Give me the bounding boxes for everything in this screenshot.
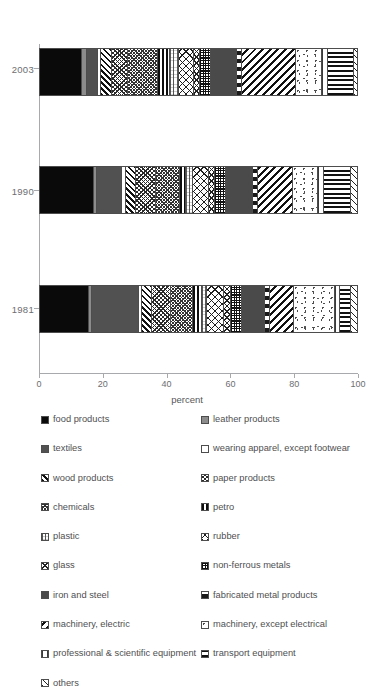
bar-segment-chemicals	[128, 49, 158, 95]
bar-segment-iron	[242, 286, 266, 332]
y-axis-label-1990: 1990	[0, 186, 34, 197]
bar-segment-paper	[112, 49, 128, 95]
legend-column-left: food productstextileswood productschemic…	[41, 414, 189, 691]
x-tick-label-40: 40	[152, 379, 182, 389]
bar-segment-rubber	[193, 167, 209, 213]
legend-item[interactable]: machinery, electric	[41, 619, 189, 648]
legend-column-right: leather productswearing apparel, except …	[201, 414, 373, 678]
x-tick-label-20: 20	[88, 379, 118, 389]
bar-segment-petro	[193, 286, 202, 332]
bar-segment-nonferrous	[200, 49, 211, 95]
legend-swatch-stipple-dots-icon	[201, 621, 209, 629]
bar-2003	[39, 48, 358, 96]
bar-segment-others	[351, 167, 357, 213]
x-tick-label-0: 0	[24, 379, 54, 389]
legend-item[interactable]: fabricated metal products	[201, 590, 373, 619]
legend-item[interactable]: rubber	[201, 531, 373, 560]
legend-item[interactable]: machinery, except electrical	[201, 619, 373, 648]
x-tick-20	[103, 374, 104, 378]
legend-swatch-diagonal-hatch-icon	[41, 474, 49, 482]
bar-segment-wood	[142, 286, 151, 332]
bar-1990	[39, 166, 358, 214]
legend-item[interactable]: plastic	[41, 531, 189, 560]
bar-segment-machelec	[258, 167, 293, 213]
bar-segment-plastic	[170, 49, 180, 95]
legend-swatch-diagonal-cross-icon	[41, 562, 49, 570]
legend-label: wood products	[53, 473, 113, 484]
bar-segment-machexcept	[296, 49, 322, 95]
x-tick-80	[294, 374, 295, 378]
x-axis-line	[39, 373, 358, 374]
bar-segment-wood	[101, 49, 112, 95]
legend-label: transport equipment	[213, 648, 296, 659]
legend-swatch-diagonal-back-hatch-icon	[41, 621, 49, 629]
legend-label: paper products	[213, 473, 275, 484]
bar-segment-machexcept	[294, 286, 335, 332]
bar-segment-iron	[226, 167, 253, 213]
legend-item[interactable]: non-ferrous metals	[201, 560, 373, 589]
legend-label: wearing apparel, except footwear	[213, 443, 350, 454]
bar-segment-chemicals	[171, 286, 193, 332]
bar-segment-textiles	[87, 49, 97, 95]
legend-item[interactable]: others	[41, 678, 189, 691]
bar-segment-paper	[136, 167, 157, 213]
legend-label: petro	[213, 502, 234, 513]
bar-segment-rubber	[179, 49, 193, 95]
stacked-bar-chart: 2003 1990 1981 020406080100 percent	[0, 0, 374, 412]
legend-label: rubber	[213, 531, 240, 542]
legend-item[interactable]: food products	[41, 414, 189, 443]
bar-segment-wood	[126, 167, 136, 213]
bar-segment-food	[40, 49, 82, 95]
legend-item[interactable]: wood products	[41, 473, 189, 502]
legend-label: glass	[53, 560, 75, 571]
legend-item[interactable]: petro	[201, 502, 373, 531]
y-axis-label-1981: 1981	[0, 304, 34, 315]
bar-segment-textiles	[92, 286, 139, 332]
bar-segment-paper	[152, 286, 171, 332]
legend-swatch-solid-gray-icon	[201, 416, 209, 424]
legend-swatch-sparse-diagonal-icon	[41, 679, 49, 687]
legend-item[interactable]: paper products	[201, 473, 373, 502]
legend-label: food products	[53, 414, 109, 425]
bar-segment-transport	[340, 286, 351, 332]
legend-item[interactable]: transport equipment	[201, 648, 373, 677]
legend-label: professional & scientific equipment	[53, 648, 196, 659]
legend-label: textiles	[53, 443, 82, 454]
legend-item[interactable]: professional & scientific equipment	[41, 648, 189, 677]
legend-swatch-cross-hatch-fine-icon	[41, 503, 49, 511]
legend-item[interactable]: wearing apparel, except footwear	[201, 443, 373, 472]
legend-swatch-solid-black-icon	[41, 416, 49, 424]
legend-swatch-horizontal-lines-icon	[201, 650, 209, 658]
bar-segment-others	[354, 49, 357, 95]
legend-swatch-sparse-ellipses-icon	[41, 591, 49, 599]
chart-legend: food productstextileswood productschemic…	[0, 414, 374, 652]
bar-segment-nonferrous	[215, 167, 226, 213]
legend-swatch-horizontal-bars-icon	[201, 591, 209, 599]
x-tick-40	[167, 374, 168, 378]
legend-item[interactable]: chemicals	[41, 502, 189, 531]
legend-swatch-solid-dark-gray-icon	[41, 445, 49, 453]
bar-segment-food	[40, 167, 94, 213]
legend-swatch-fine-vertical-lines-icon	[41, 650, 49, 658]
legend-label: iron and steel	[53, 590, 109, 601]
bar-segment-food	[40, 286, 89, 332]
legend-item[interactable]: glass	[41, 560, 189, 589]
legend-swatch-light-vertical-dots-icon	[41, 533, 49, 541]
x-axis-title: percent	[0, 394, 374, 405]
legend-item[interactable]: iron and steel	[41, 590, 189, 619]
x-tick-label-60: 60	[215, 379, 245, 389]
bar-segment-transport	[328, 49, 354, 95]
bar-segment-transport	[324, 167, 351, 213]
legend-swatch-coarse-cross-icon	[201, 533, 209, 541]
legend-label: leather products	[213, 414, 280, 425]
legend-item[interactable]: leather products	[201, 414, 373, 443]
legend-label: chemicals	[53, 502, 94, 513]
x-tick-label-100: 100	[343, 379, 373, 389]
bar-1981	[39, 285, 358, 333]
bar-segment-machelec	[270, 286, 294, 332]
x-tick-0	[39, 374, 40, 378]
legend-swatch-grid-dense-icon	[201, 562, 209, 570]
bar-segment-petro	[158, 49, 169, 95]
legend-item[interactable]: textiles	[41, 443, 189, 472]
bar-segment-textiles	[97, 167, 122, 213]
